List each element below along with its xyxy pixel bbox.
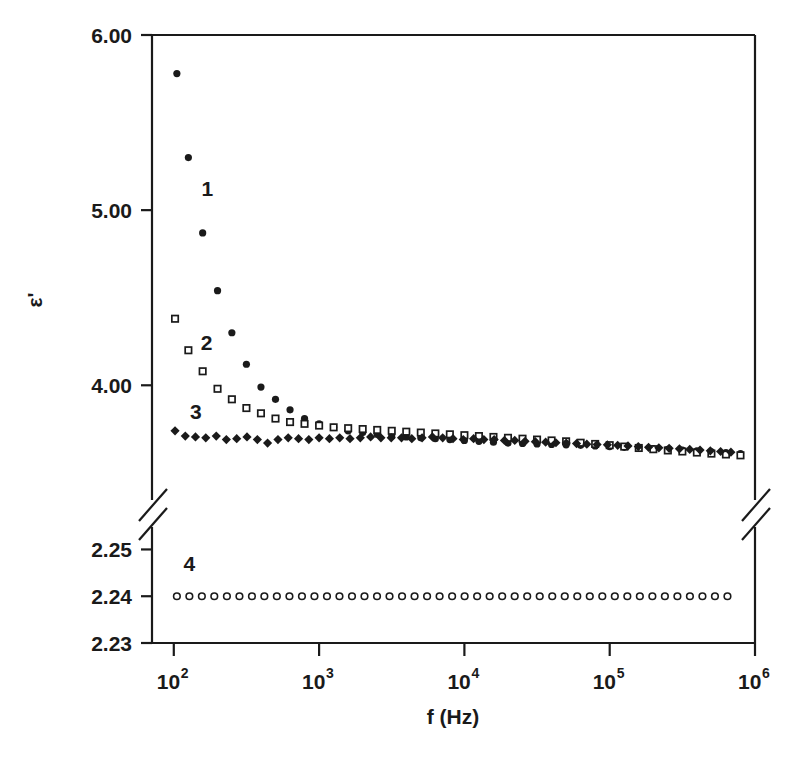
- data-point-2: [185, 347, 191, 353]
- y-tick-label: 5.00: [91, 199, 132, 222]
- series-annotation-4: 4: [184, 552, 196, 575]
- data-point-4: [199, 593, 206, 600]
- data-point-1: [185, 154, 192, 161]
- y-tick-label: 4.00: [91, 374, 132, 397]
- data-point-3: [242, 432, 251, 441]
- data-point-4: [549, 593, 556, 600]
- data-point-2: [214, 386, 220, 392]
- data-point-2: [258, 410, 264, 416]
- data-point-4: [299, 593, 306, 600]
- data-point-4: [211, 593, 218, 600]
- data-point-4: [374, 593, 381, 600]
- data-point-3: [181, 431, 190, 440]
- data-point-4: [361, 593, 368, 600]
- data-point-3: [212, 431, 221, 440]
- plot-frame: [152, 35, 755, 643]
- data-point-2: [272, 415, 278, 421]
- y-axis-title: ε': [23, 293, 46, 308]
- data-point-3: [263, 438, 272, 447]
- data-point-3: [201, 433, 210, 442]
- data-point-1: [173, 70, 180, 77]
- data-point-4: [174, 593, 181, 600]
- data-point-2: [172, 316, 178, 322]
- data-point-4: [311, 593, 318, 600]
- data-point-2: [330, 424, 336, 430]
- data-point-2: [389, 428, 395, 434]
- data-point-3: [170, 426, 179, 435]
- data-point-4: [637, 593, 644, 600]
- data-point-3: [232, 434, 241, 443]
- data-point-2: [301, 421, 307, 427]
- data-point-3: [345, 434, 354, 443]
- data-point-2: [359, 426, 365, 432]
- data-point-4: [411, 593, 418, 600]
- data-point-4: [236, 593, 243, 600]
- data-point-1: [286, 406, 293, 413]
- data-point-2: [287, 419, 293, 425]
- x-tick-label: 10: [593, 670, 616, 693]
- data-point-1: [199, 229, 206, 236]
- data-point-2: [737, 452, 743, 458]
- data-point-4: [186, 593, 193, 600]
- data-point-1: [257, 383, 264, 390]
- data-point-4: [662, 593, 669, 600]
- x-tick-exponent: 3: [326, 665, 334, 681]
- data-point-4: [436, 593, 443, 600]
- chart-svg: 4.005.006.002.232.242.25 102103104105106…: [0, 0, 799, 767]
- series-annotation-2: 2: [201, 331, 213, 354]
- data-point-1: [214, 287, 221, 294]
- data-point-2: [243, 405, 249, 411]
- data-point-4: [386, 593, 393, 600]
- x-tick-exponent: 6: [762, 665, 770, 681]
- data-point-4: [499, 593, 506, 600]
- data-point-4: [524, 593, 531, 600]
- data-point-2: [229, 396, 235, 402]
- y-tick-label: 2.23: [91, 632, 132, 655]
- data-point-1: [243, 361, 250, 368]
- data-point-2: [345, 425, 351, 431]
- data-point-4: [286, 593, 293, 600]
- data-point-4: [599, 593, 606, 600]
- data-point-4: [224, 593, 231, 600]
- y-axis-title-text: ε': [23, 293, 46, 308]
- data-point-3: [294, 434, 303, 443]
- data-point-3: [304, 435, 313, 444]
- data-point-4: [586, 593, 593, 600]
- data-point-4: [649, 593, 656, 600]
- y-tick-label: 2.25: [91, 538, 132, 561]
- series-4: [174, 593, 731, 600]
- x-tick-label: 10: [738, 670, 761, 693]
- x-tick-label: 10: [302, 670, 325, 693]
- data-point-4: [624, 593, 631, 600]
- dielectric-permittivity-chart: 4.005.006.002.232.242.25 102103104105106…: [0, 0, 799, 767]
- data-point-1: [228, 329, 235, 336]
- data-point-3: [314, 433, 323, 442]
- x-tick-exponent: 4: [471, 665, 479, 681]
- data-point-1: [272, 396, 279, 403]
- data-point-4: [712, 593, 719, 600]
- data-point-4: [674, 593, 681, 600]
- data-point-4: [612, 593, 619, 600]
- data-point-4: [699, 593, 706, 600]
- series-annotations: 1234: [184, 177, 214, 574]
- series-annotation-1: 1: [201, 177, 213, 200]
- data-point-4: [324, 593, 331, 600]
- x-tick-exponent: 5: [617, 665, 625, 681]
- x-axis-title: f (Hz): [427, 705, 479, 728]
- data-point-4: [486, 593, 493, 600]
- data-point-4: [511, 593, 518, 600]
- data-point-3: [325, 434, 334, 443]
- series-annotation-3: 3: [190, 400, 202, 423]
- data-point-4: [474, 593, 481, 600]
- data-point-3: [253, 435, 262, 444]
- data-point-4: [574, 593, 581, 600]
- data-point-3: [273, 435, 282, 444]
- data-point-4: [274, 593, 281, 600]
- data-point-4: [424, 593, 431, 600]
- y-tick-label: 2.24: [91, 585, 132, 608]
- data-point-4: [449, 593, 456, 600]
- data-point-3: [284, 433, 293, 442]
- data-point-4: [687, 593, 694, 600]
- y-axis-ticks: 4.005.006.002.232.242.25: [91, 24, 152, 655]
- data-point-4: [724, 593, 731, 600]
